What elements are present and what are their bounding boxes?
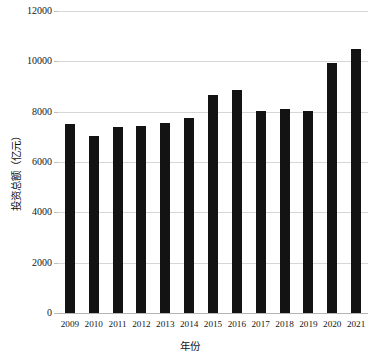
y-axis-tick xyxy=(54,11,58,12)
bar xyxy=(113,127,123,313)
y-axis-tick xyxy=(54,162,58,163)
y-axis-tick xyxy=(54,61,58,62)
bar xyxy=(136,126,146,313)
bar xyxy=(89,136,99,313)
y-axis-tick xyxy=(54,212,58,213)
y-axis-tick-label: 0 xyxy=(0,307,52,318)
bar xyxy=(184,118,194,313)
bar xyxy=(280,109,290,313)
y-axis-tick xyxy=(54,263,58,264)
plot-area xyxy=(58,11,368,313)
bar xyxy=(351,49,361,313)
y-axis-tick-label: 4000 xyxy=(0,206,52,217)
y-axis-tick-label: 6000 xyxy=(0,156,52,167)
gridline xyxy=(58,11,368,12)
bar xyxy=(303,111,313,313)
x-axis-tick-label: 2021 xyxy=(341,319,371,329)
y-axis-tick xyxy=(54,313,58,314)
gridline xyxy=(58,61,368,62)
bar xyxy=(208,95,218,313)
y-axis-tick-label: 2000 xyxy=(0,257,52,268)
bar xyxy=(232,90,242,313)
y-axis-tick xyxy=(54,112,58,113)
y-axis-tick-label: 12000 xyxy=(0,5,52,16)
bar xyxy=(327,63,337,313)
y-axis-tick-label: 10000 xyxy=(0,55,52,66)
x-axis-line xyxy=(58,313,368,314)
bar-chart: 投资总额（亿元） 020004000600080001000012000 200… xyxy=(0,0,380,364)
bar xyxy=(65,124,75,313)
bar xyxy=(160,123,170,313)
y-axis-tick-label: 8000 xyxy=(0,106,52,117)
x-axis-title: 年份 xyxy=(0,338,380,353)
bar xyxy=(256,111,266,313)
